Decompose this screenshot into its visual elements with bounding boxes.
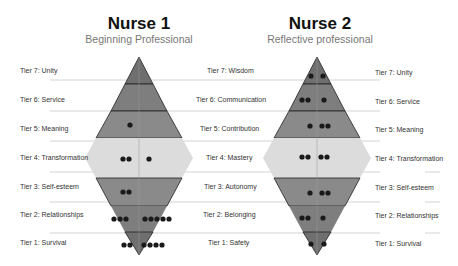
right-label-tier5: Tier 5: Meaning: [375, 126, 423, 133]
nurse2-diamond: [263, 57, 371, 255]
left-label-tier3: Tier 3: Self-esteem: [20, 183, 79, 190]
center-label-tier3: Tier 3: Autonomy: [204, 183, 257, 190]
center-label-tier1: Tier 1: Safety: [208, 239, 249, 246]
left-label-tier2: Tier 2: Relationships: [20, 211, 84, 218]
left-label-tier1: Tier 1: Survival: [20, 239, 66, 246]
diagram-canvas: [0, 0, 458, 266]
center-label-tier7: Tier 7: Wisdom: [207, 67, 254, 74]
right-label-tier6: Tier 6: Service: [375, 98, 420, 105]
left-label-tier6: Tier 6: Service: [20, 96, 65, 103]
center-label-tier5: Tier 5: Contribution: [200, 125, 259, 132]
center-label-tier6: Tier 6: Communication: [196, 96, 266, 103]
right-label-tier2: Tier 2: Relationships: [375, 212, 439, 219]
right-label-tier4: Tier 4: Transformation: [375, 155, 443, 162]
center-label-tier2: Tier 2: Belonging: [203, 211, 256, 218]
nurse1-diamond: [85, 57, 193, 255]
right-label-tier7: Tier 7: Unity: [375, 69, 412, 76]
left-label-tier7: Tier 7: Unity: [20, 67, 57, 74]
center-label-tier4: Tier 4: Mastery: [206, 154, 252, 161]
right-label-tier3: Tier 3: Self-esteem: [375, 184, 434, 191]
right-label-tier1: Tier 1: Survival: [375, 240, 421, 247]
left-label-tier4: Tier 4: Transformation: [20, 154, 88, 161]
left-label-tier5: Tier 5: Meaning: [20, 125, 68, 132]
